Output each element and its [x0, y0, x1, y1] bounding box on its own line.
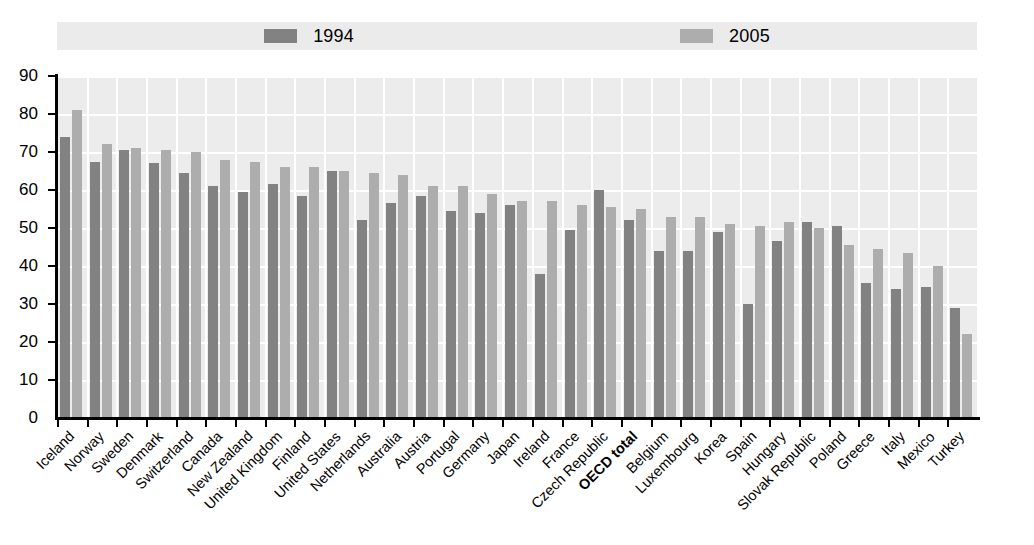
bar-1994: [772, 241, 782, 418]
y-axis-tick-label: 30: [19, 294, 38, 314]
bar-2005: [725, 224, 735, 418]
bar-2005: [339, 171, 349, 418]
bar-chart: 1994 2005 0102030405060708090 IcelandNor…: [0, 0, 1034, 545]
bar-1994: [90, 162, 100, 419]
y-axis-tick-label: 20: [19, 332, 38, 352]
bar-2005: [398, 175, 408, 418]
y-axis-tick-label: 60: [19, 180, 38, 200]
legend-swatch-1994: [264, 29, 297, 43]
bar-1994: [386, 203, 396, 418]
y-axis-tick: [48, 113, 56, 115]
y-axis-tick: [48, 341, 56, 343]
y-axis-tick: [48, 75, 56, 77]
bar-group: [235, 76, 265, 418]
y-axis-tick-label: 10: [19, 370, 38, 390]
bar-2005: [102, 144, 112, 418]
bar-group: [116, 76, 146, 418]
y-axis-tick-label: 40: [19, 256, 38, 276]
bar-1994: [683, 251, 693, 418]
bar-group: [176, 76, 206, 418]
bar-1994: [416, 196, 426, 418]
bar-2005: [220, 160, 230, 418]
bar-group: [562, 76, 592, 418]
bar-2005: [458, 186, 468, 418]
bar-2005: [962, 334, 972, 418]
bar-group: [888, 76, 918, 418]
bar-group: [918, 76, 948, 418]
y-axis-tick-label: 90: [19, 66, 38, 86]
bar-1994: [654, 251, 664, 418]
bar-1994: [357, 220, 367, 418]
y-axis-tick: [48, 189, 56, 191]
bar-group: [443, 76, 473, 418]
bar-group: [769, 76, 799, 418]
bar-1994: [179, 173, 189, 418]
bar-2005: [755, 226, 765, 418]
legend-label-1994: 1994: [313, 26, 354, 47]
y-axis-tick: [48, 151, 56, 153]
bar-2005: [72, 110, 82, 418]
bar-group: [799, 76, 829, 418]
bar-group: [591, 76, 621, 418]
bar-2005: [309, 167, 319, 418]
bar-group: [294, 76, 324, 418]
bar-2005: [784, 222, 794, 418]
plot-area: [57, 76, 977, 418]
legend-item-2005: 2005: [680, 26, 770, 47]
legend-swatch-2005: [680, 29, 713, 43]
bar-2005: [369, 173, 379, 418]
x-axis-tick-label: Korea: [691, 428, 730, 467]
bar-group: [680, 76, 710, 418]
bar-1994: [446, 211, 456, 418]
bar-1994: [208, 186, 218, 418]
bar-1994: [891, 289, 901, 418]
bar-group: [621, 76, 651, 418]
bar-2005: [161, 150, 171, 418]
bar-1994: [832, 226, 842, 418]
y-axis-tick-label: 80: [19, 104, 38, 124]
bar-2005: [191, 152, 201, 418]
bar-group: [413, 76, 443, 418]
bar-group: [858, 76, 888, 418]
bar-1994: [565, 230, 575, 418]
bar-group: [532, 76, 562, 418]
bar-1994: [475, 213, 485, 418]
legend-label-2005: 2005: [729, 26, 770, 47]
bar-2005: [695, 217, 705, 418]
bar-1994: [594, 190, 604, 418]
bar-2005: [547, 201, 557, 418]
bar-group: [947, 76, 977, 418]
bar-1994: [861, 283, 871, 418]
bar-2005: [250, 162, 260, 419]
bar-2005: [131, 148, 141, 418]
bar-series-layer: [57, 76, 977, 418]
bar-2005: [606, 207, 616, 418]
bar-1994: [743, 304, 753, 418]
bar-1994: [921, 287, 931, 418]
bar-1994: [713, 232, 723, 418]
bar-1994: [535, 274, 545, 418]
bar-group: [651, 76, 681, 418]
bar-2005: [814, 228, 824, 418]
bar-2005: [933, 266, 943, 418]
y-axis-tick: [48, 265, 56, 267]
bar-2005: [428, 186, 438, 418]
bar-2005: [280, 167, 290, 418]
bar-group: [472, 76, 502, 418]
bar-group: [383, 76, 413, 418]
bar-2005: [873, 249, 883, 418]
bar-group: [205, 76, 235, 418]
bar-group: [324, 76, 354, 418]
bar-1994: [268, 184, 278, 418]
bar-1994: [149, 163, 159, 418]
bar-1994: [950, 308, 960, 418]
bar-1994: [238, 192, 248, 418]
y-axis-tick: [48, 379, 56, 381]
bar-1994: [327, 171, 337, 418]
bar-group: [57, 76, 87, 418]
y-axis-tick: [48, 303, 56, 305]
bar-1994: [505, 205, 515, 418]
bar-group: [502, 76, 532, 418]
y-axis-tick-label: 70: [19, 142, 38, 162]
bar-2005: [487, 194, 497, 418]
